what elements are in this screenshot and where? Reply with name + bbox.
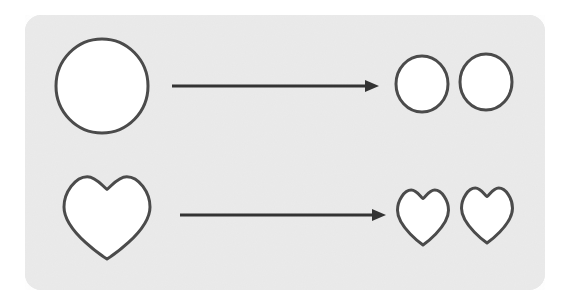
shape-halving-figure: Shape halving diagram A light gray round… xyxy=(0,0,571,305)
small-circle-right xyxy=(460,54,512,110)
small-circle-left xyxy=(396,56,448,112)
diagram-canvas: Shape halving diagram A light gray round… xyxy=(0,0,571,305)
large-circle xyxy=(56,39,148,133)
